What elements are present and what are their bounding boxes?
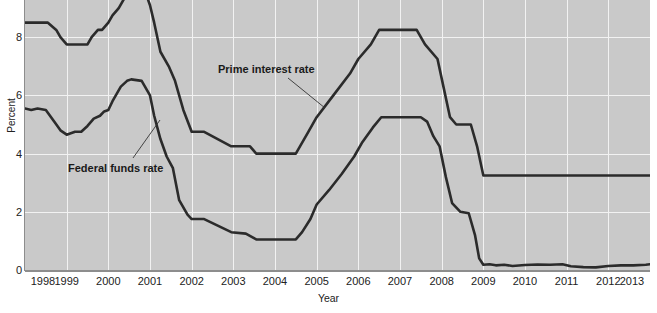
x-axis-line bbox=[25, 270, 650, 272]
x-axis-tick-label: 2013 bbox=[612, 274, 652, 288]
series-annotation-federal-funds: Federal funds rate bbox=[68, 162, 163, 174]
x-axis-tick-label: 2010 bbox=[505, 274, 545, 288]
x-axis-tick-label: 2002 bbox=[172, 274, 212, 288]
x-axis-tick-label: 2008 bbox=[422, 274, 462, 288]
y-axis-line bbox=[24, 0, 25, 271]
x-axis-tick-label: 2007 bbox=[380, 274, 420, 288]
y-axis-tick-label: 8 bbox=[0, 32, 22, 42]
y-axis-tick-label: 2 bbox=[0, 207, 22, 217]
x-axis-title: Year bbox=[0, 292, 657, 304]
x-axis-tick-label: 2006 bbox=[338, 274, 378, 288]
x-axis-tick-label: 2004 bbox=[255, 274, 295, 288]
series-annotation-prime: Prime interest rate bbox=[218, 63, 315, 75]
x-axis-tick-label: 1999 bbox=[47, 274, 87, 288]
series-lines bbox=[25, 0, 650, 270]
y-axis-title: Percent bbox=[6, 81, 17, 151]
plot-area bbox=[25, 0, 650, 270]
interest-rate-line-chart: 02468 Percent 19981999200020012002200320… bbox=[0, 0, 657, 313]
x-axis-tick-label: 2003 bbox=[213, 274, 253, 288]
x-axis-tick-label: 2009 bbox=[463, 274, 503, 288]
x-axis-tick-label: 2001 bbox=[130, 274, 170, 288]
x-axis-tick-labels: 1998199920002001200220032004200520062007… bbox=[0, 274, 657, 290]
x-axis-tick-label: 2005 bbox=[297, 274, 337, 288]
x-axis-tick-label: 2011 bbox=[547, 274, 587, 288]
x-axis-tick-label: 2000 bbox=[88, 274, 128, 288]
